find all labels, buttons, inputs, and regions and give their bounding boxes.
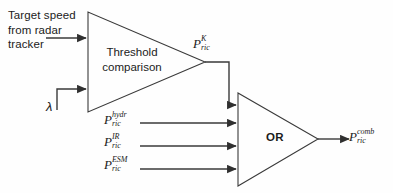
wire-lambda <box>57 89 86 110</box>
signal-subscript: ric <box>112 141 121 150</box>
signal-superscript: ESM <box>112 155 128 164</box>
signal-label-prick: PKric <box>193 34 206 52</box>
signal-base: P <box>104 112 112 127</box>
signal-superscript: IR <box>112 132 120 141</box>
signal-label-pricesm: PESMric <box>104 155 128 173</box>
block-diagram: Target speed from radar tracker λ Thresh… <box>0 0 393 193</box>
threshold-block-label: Threshold comparison <box>97 45 167 75</box>
signal-label-priccomb: Pcombric <box>349 127 374 145</box>
wire-prick-to-or <box>205 62 236 105</box>
signal-superscript: comb <box>357 127 374 136</box>
signal-subscript: ric <box>357 136 366 145</box>
signal-subscript: ric <box>112 119 121 128</box>
or-gate-label: OR <box>266 131 284 143</box>
signal-label-prichydr: Phydrric <box>104 110 127 128</box>
signal-label-pricir: PIRric <box>104 132 120 150</box>
target-speed-caption: Target speed from radar tracker <box>8 8 94 52</box>
signal-subscript: ric <box>112 164 121 173</box>
signal-subscript: ric <box>201 43 210 52</box>
signal-base: P <box>349 129 357 144</box>
lambda-input-label: λ <box>46 99 52 114</box>
signal-base: P <box>104 134 112 149</box>
signal-superscript: hydr <box>112 110 127 119</box>
signal-base: P <box>104 157 112 172</box>
signal-superscript: K <box>201 34 206 43</box>
signal-base: P <box>193 36 201 51</box>
